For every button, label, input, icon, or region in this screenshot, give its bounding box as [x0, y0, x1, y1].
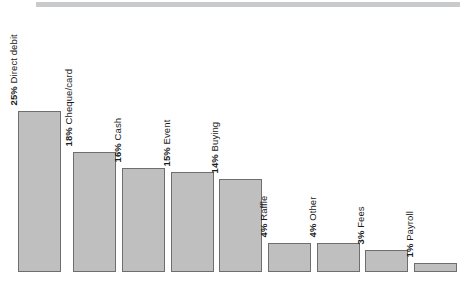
- bar-value-label: 14% Buying: [210, 121, 220, 173]
- bar-percent: 4%: [258, 223, 269, 237]
- bar-group: 4% Other: [317, 243, 360, 272]
- bar-value-label: 4% Other: [308, 196, 318, 237]
- bar-percent: 1%: [404, 243, 415, 257]
- bar[interactable]: [122, 168, 165, 272]
- bar[interactable]: [18, 111, 61, 272]
- bar-category-name: Payroll: [404, 211, 415, 241]
- plot-area: 25% Direct debit18% Cheque/card16% Cash1…: [0, 0, 472, 287]
- bar-group: 16% Cash: [122, 168, 165, 272]
- bar-percent: 25%: [8, 86, 19, 105]
- bar-group: 25% Direct debit: [18, 111, 61, 272]
- bar-group: 3% Fees: [365, 250, 408, 272]
- bar-group: 14% Buying: [219, 179, 262, 272]
- bar-value-label: 25% Direct debit: [9, 34, 19, 105]
- bar-percent: 14%: [209, 154, 220, 173]
- bar-category-name: Event: [161, 119, 172, 144]
- bar-chart: 25% Direct debit18% Cheque/card16% Cash1…: [0, 0, 472, 287]
- bar-percent: 16%: [112, 143, 123, 162]
- bar-group: 4% Raffle: [268, 243, 311, 272]
- bar[interactable]: [414, 263, 457, 272]
- bar-category-name: Raffle: [258, 195, 269, 220]
- bar-value-label: 3% Fees: [356, 206, 366, 244]
- bar-category-name: Other: [307, 196, 318, 220]
- bar-percent: 3%: [355, 230, 366, 244]
- bar[interactable]: [317, 243, 360, 272]
- bar-value-label: 18% Cheque/card: [64, 68, 74, 146]
- bar-category-name: Cheque/card: [63, 68, 74, 124]
- bar[interactable]: [365, 250, 408, 272]
- bar[interactable]: [219, 179, 262, 272]
- bar-value-label: 15% Event: [162, 119, 172, 166]
- bar-value-label: 4% Raffle: [259, 195, 269, 237]
- bar-category-name: Fees: [355, 206, 366, 228]
- bar-value-label: 16% Cash: [113, 117, 123, 162]
- bar-category-name: Direct debit: [8, 34, 19, 83]
- bar-group: 15% Event: [171, 172, 214, 272]
- bar-value-label: 1% Payroll: [405, 211, 415, 257]
- bar-group: 1% Payroll: [414, 263, 457, 272]
- bar[interactable]: [171, 172, 214, 272]
- bar-category-name: Cash: [112, 117, 123, 140]
- bar-group: 18% Cheque/card: [73, 152, 116, 272]
- bar-percent: 15%: [161, 147, 172, 166]
- bar[interactable]: [268, 243, 311, 272]
- bar[interactable]: [73, 152, 116, 272]
- bar-percent: 18%: [63, 127, 74, 146]
- bar-category-name: Buying: [209, 121, 220, 151]
- bar-percent: 4%: [307, 223, 318, 237]
